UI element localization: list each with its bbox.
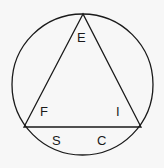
vertex-label-s: S (52, 134, 61, 147)
vertex-label-f: F (40, 105, 48, 118)
vertex-label-i: I (116, 105, 120, 118)
geometry-figure: E F I S C (0, 0, 164, 168)
vertex-label-e: E (77, 31, 86, 44)
vertex-label-c: C (97, 134, 106, 147)
geometry-canvas (0, 0, 164, 168)
